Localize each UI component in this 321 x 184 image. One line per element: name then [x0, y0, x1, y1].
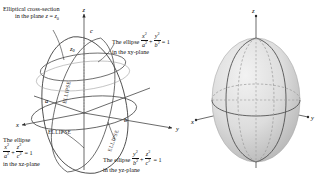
semi-axis-c-label: c	[90, 27, 93, 34]
fraction-z2-c2: z2c2	[16, 143, 23, 159]
caption-xy-pre: The ellipse	[112, 38, 141, 45]
xy-num1-exp: 2	[145, 31, 147, 36]
caption-xz-eq: = 1	[23, 149, 33, 156]
semi-axis-a-label: a	[45, 97, 48, 104]
caption-xy-tail: in the xy-plane	[112, 48, 149, 55]
caption-plane-pre: in the plane	[15, 12, 45, 19]
right-y-axis-label: y	[310, 114, 314, 121]
yz-den1-exp: 2	[136, 158, 138, 163]
ellipse-word-xz: ELLIPSE	[61, 80, 72, 104]
y-axis-label: y	[175, 125, 179, 132]
caption-yz-eq: = 1	[151, 156, 161, 163]
caption-xz-ellipse: The ellipse x2a2+z2c2= 1 in the xz-plane	[3, 136, 83, 167]
y-axis-negative	[84, 88, 150, 113]
z0-label: z0	[69, 45, 76, 53]
yz-num1-exp: 2	[136, 149, 138, 154]
right-shaded-diagram: z y x	[190, 0, 321, 184]
caption-yz-tail: in the yz-plane	[103, 166, 140, 173]
caption-xz-tail: in the xz-plane	[3, 160, 40, 167]
right-z-axis-label: z	[251, 7, 255, 14]
xz-num2-exp: 2	[19, 142, 21, 147]
xz-num1-exp: 2	[7, 142, 9, 147]
caption-xy-eq: = 1	[161, 38, 170, 45]
ellipse-word-xy: ELLIPSE	[48, 129, 71, 135]
ellipsoid-figure: z y x c b a z0 ELLIPSE ELLIPSE ELLIPSE E…	[0, 0, 321, 184]
fraction-x2-a2: x2a2	[141, 32, 148, 48]
guide-ellipse	[35, 56, 132, 95]
xy-num2-exp: 2	[158, 31, 160, 36]
x-axis-label: x	[15, 121, 19, 128]
caption-cross-section: Elliptical cross-section in the plane z …	[3, 5, 93, 23]
xz-den2-exp: 2	[19, 151, 21, 156]
ellipse-word-yz: ELLIPSE	[106, 128, 120, 152]
right-x-axis-label: x	[190, 118, 194, 125]
caption-yz-pre: The ellipse	[103, 156, 132, 163]
caption-plane-sub: 0	[57, 17, 59, 22]
caption-cross-section-line1: Elliptical cross-section	[3, 5, 60, 12]
fraction-y2-b2: y2b2	[154, 32, 161, 48]
caption-xy-ellipse: The ellipse x2a2+y2b2= 1 in the xy-plane	[112, 32, 190, 56]
xy-den1-exp: 2	[145, 40, 147, 45]
fraction-y2-b2-b: y2b2	[132, 150, 139, 166]
caption-yz-ellipse: The ellipse y2b2+z2c2= 1 in the yz-plane	[103, 150, 195, 174]
xz-den1-exp: 2	[7, 151, 9, 156]
yz-num2-exp: 2	[148, 149, 150, 154]
xy-den2-exp: 2	[158, 40, 160, 45]
